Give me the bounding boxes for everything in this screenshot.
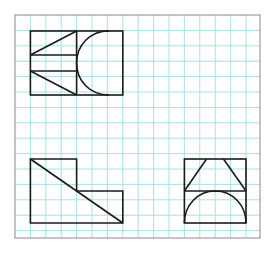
drawing-canvas <box>0 0 273 255</box>
frame-border <box>15 15 260 238</box>
orthographic-diagram <box>0 0 273 255</box>
grid-lines <box>15 15 260 238</box>
top-view <box>30 31 122 95</box>
